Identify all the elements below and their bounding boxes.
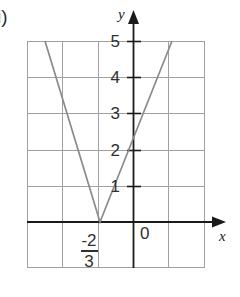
ytick-label-2: 2 xyxy=(100,141,120,161)
ytick-label-1: 1 xyxy=(100,177,120,197)
graph-figure: i) xyxy=(0,0,240,297)
ytick-label-4: 4 xyxy=(100,68,120,88)
coordinate-plane-svg xyxy=(0,0,240,297)
fraction-denominator: 3 xyxy=(74,253,104,270)
x-axis-label: x xyxy=(219,228,226,245)
fraction-numerator: -2 xyxy=(74,232,104,249)
y-axis-label: y xyxy=(118,6,125,23)
x-axis-arrowhead xyxy=(212,217,226,228)
ytick-label-3: 3 xyxy=(100,104,120,124)
x-intercept-fraction-label: -2 3 xyxy=(74,232,104,271)
origin-label: 0 xyxy=(140,224,149,244)
ytick-label-5: 5 xyxy=(100,32,120,52)
y-axis-arrowhead xyxy=(128,10,139,24)
